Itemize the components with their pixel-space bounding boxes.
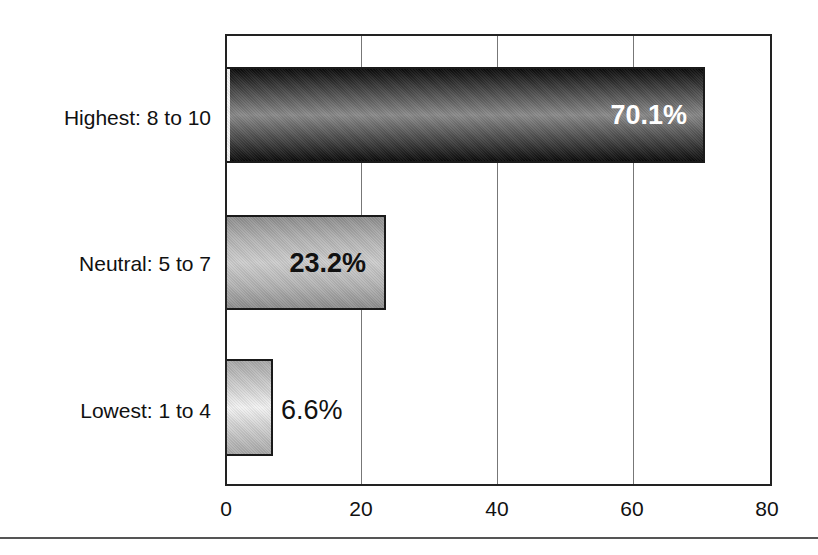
x-tick-60: 60: [620, 498, 643, 519]
bar-neutral: 23.2%: [227, 215, 386, 310]
x-tick-80: 80: [755, 498, 778, 519]
category-label-neutral: Neutral: 5 to 7: [79, 253, 211, 274]
value-label-neutral: 23.2%: [289, 249, 366, 276]
bar-highest: 70.1%: [227, 67, 705, 163]
category-label-lowest: Lowest: 1 to 4: [80, 400, 211, 421]
category-label-highest: Highest: 8 to 10: [64, 107, 211, 128]
x-tick-20: 20: [349, 498, 372, 519]
value-label-lowest: 6.6%: [281, 397, 343, 424]
value-label-highest: 70.1%: [610, 102, 687, 129]
bottom-divider: [0, 537, 818, 539]
x-tick-40: 40: [485, 498, 508, 519]
bar-lowest: [227, 359, 273, 456]
plot-area: 70.1% 23.2% 6.6%: [225, 34, 772, 486]
bar-texture: [227, 361, 271, 454]
x-tick-0: 0: [220, 498, 232, 519]
